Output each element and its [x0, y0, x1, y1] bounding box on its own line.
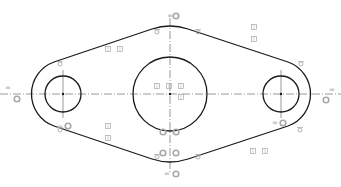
- sketch-canvas[interactable]: ======: [0, 0, 341, 187]
- concentric-constraint-icon[interactable]: [173, 171, 179, 177]
- center-point[interactable]: [169, 93, 171, 95]
- tangent-constraint-icon[interactable]: [155, 30, 159, 34]
- equal-constraint-icon[interactable]: =: [272, 119, 278, 127]
- concentric-constraint-icon[interactable]: [173, 150, 179, 156]
- concentric-constraint-icon[interactable]: [14, 96, 20, 102]
- tangent-constraint-icon[interactable]: [58, 62, 62, 66]
- equal-constraint-icon[interactable]: =: [164, 170, 170, 178]
- right-center-point[interactable]: [280, 93, 282, 95]
- tangent-constraint-icon[interactable]: [155, 155, 159, 159]
- tangent-constraint-icon[interactable]: [298, 128, 302, 132]
- left-center-point[interactable]: [62, 93, 64, 95]
- equal-constraint-icon[interactable]: =: [329, 86, 335, 94]
- equal-constraint-icon[interactable]: =: [5, 84, 11, 92]
- equal-constraint-icon[interactable]: =: [167, 12, 173, 20]
- tangent-constraint-icon[interactable]: [299, 62, 303, 66]
- concentric-constraint-icon[interactable]: [280, 120, 286, 126]
- concentric-constraint-icon[interactable]: [160, 150, 166, 156]
- concentric-constraint-icon[interactable]: [173, 13, 179, 19]
- concentric-constraint-icon[interactable]: [65, 123, 71, 129]
- concentric-constraint-icon[interactable]: [323, 97, 329, 103]
